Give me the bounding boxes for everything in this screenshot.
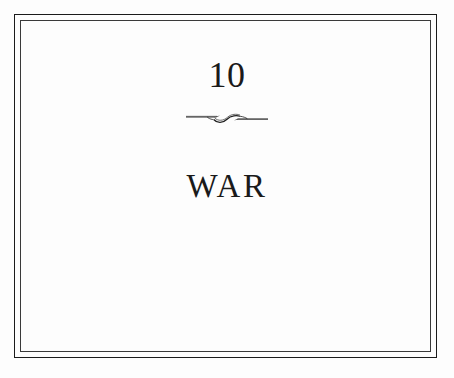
swash-rule-ornament [185, 110, 269, 126]
chapter-title: WAR [187, 170, 268, 203]
chapter-number: 10 [209, 57, 246, 93]
chapter-title-page: 10 WAR [0, 0, 454, 378]
